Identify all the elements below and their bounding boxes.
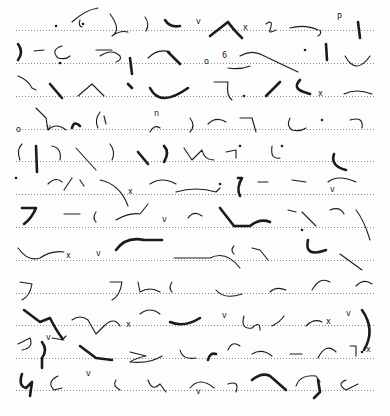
shorthand-outline	[318, 348, 336, 358]
shorthand-outline	[168, 52, 180, 64]
shorthand-outline	[180, 350, 196, 358]
shorthand-outline	[150, 180, 176, 184]
shorthand-outline	[110, 14, 128, 36]
shorthand-outline	[18, 76, 36, 90]
shorthand-mark: v	[46, 333, 51, 342]
shorthand-outline	[130, 58, 132, 74]
vowel-dot	[301, 229, 304, 232]
shorthand-mark: P	[337, 13, 342, 22]
shorthand-outline	[306, 321, 322, 326]
vowel-dot	[239, 145, 242, 148]
shorthand-outline	[170, 318, 200, 324]
shorthand-outline	[18, 338, 31, 350]
shorthand-outline	[42, 342, 45, 368]
shorthand-outline	[190, 118, 193, 132]
shorthand-outline	[296, 376, 320, 386]
shorthand-outline	[356, 281, 372, 286]
vowel-dot	[361, 351, 364, 354]
shorthand-outline	[140, 310, 160, 314]
shorthand-outline	[50, 84, 62, 98]
shorthand-outline	[116, 239, 162, 250]
shorthand-outline	[150, 88, 188, 98]
shorthand-outline	[252, 375, 286, 390]
shorthand-mark: o	[204, 57, 209, 66]
shorthand-outline	[326, 44, 327, 60]
shorthand-outline	[148, 51, 170, 58]
shorthand-mark: v	[346, 309, 351, 318]
shorthand-outline	[79, 20, 82, 27]
shorthand-mark: v	[46, 123, 51, 132]
shorthand-outline	[72, 8, 98, 22]
shorthand-outline	[100, 180, 128, 206]
shorthand-outline	[21, 374, 32, 396]
shorthand-outline	[214, 82, 232, 100]
shorthand-outline	[22, 208, 36, 224]
shorthand-outline	[362, 310, 370, 350]
vowel-dot	[15, 177, 18, 180]
shorthand-outline	[48, 179, 62, 184]
shorthand-outline	[270, 288, 286, 292]
shorthand-outline	[344, 91, 372, 94]
shorthand-outline	[145, 17, 148, 31]
shorthand-mark: x	[128, 187, 133, 196]
vowel-dot	[243, 95, 246, 98]
shorthand-outline	[165, 20, 180, 26]
shorthand-outline	[341, 380, 358, 390]
shorthand-mark: x	[326, 317, 331, 326]
vowel-dot	[281, 145, 284, 148]
shorthand-outline	[115, 380, 120, 390]
shorthand-outline	[130, 352, 162, 362]
shorthand-outline	[72, 317, 120, 334]
shorthand-outline	[272, 316, 284, 326]
shorthand-outline	[228, 66, 250, 69]
shorthand-outline	[110, 282, 122, 300]
shorthand-outline	[150, 127, 160, 132]
shorthand-outline	[358, 22, 360, 38]
shorthand-mark: v	[162, 215, 167, 224]
shorthand-outline	[356, 210, 370, 240]
shorthand-outline	[64, 178, 72, 190]
shorthand-outline	[243, 316, 260, 330]
shorthand-mark: n	[154, 109, 159, 118]
shorthand-outline	[208, 119, 226, 124]
shorthand-outline	[288, 118, 306, 131]
shorthand-outline	[138, 152, 148, 164]
shorthand-mark: x	[66, 251, 71, 260]
shorthand-mark: o	[16, 125, 21, 134]
shorthand-outline	[350, 346, 356, 356]
shorthand-outline	[18, 144, 22, 160]
shorthand-outline	[288, 210, 296, 212]
shorthand-outline	[36, 146, 37, 172]
shorthand-outline	[96, 112, 100, 128]
shorthand-outline	[34, 50, 44, 51]
shorthand-outline	[78, 84, 104, 96]
shorthand-outline	[238, 178, 242, 196]
shorthand-outline	[174, 256, 240, 268]
shorthand-mark: x	[126, 320, 131, 329]
shorthand-outline	[302, 212, 316, 226]
shorthand-outline	[266, 82, 280, 96]
shorthand-outline	[312, 280, 330, 290]
shorthand-mark: x	[243, 23, 248, 32]
shorthand-outline	[36, 108, 66, 130]
shorthand-outline	[266, 22, 276, 32]
shorthand-outline	[51, 376, 62, 390]
vowel-dot	[82, 23, 85, 26]
shorthand-outline	[290, 26, 318, 30]
vowel-dot	[219, 183, 222, 186]
shorthand-outline	[252, 248, 268, 260]
shorthand-outline	[307, 240, 326, 252]
shorthand-outline	[333, 154, 346, 170]
shorthand-outline	[72, 123, 80, 128]
shorthand-outline	[188, 213, 202, 218]
shorthand-outline	[345, 56, 370, 66]
shorthand-outline	[80, 180, 84, 186]
shorthand-strokes: vxPo6xovnvxvxvxvxvvxvv	[0, 0, 390, 416]
shorthand-outline	[226, 150, 236, 158]
shorthand-outline	[94, 212, 96, 222]
shorthand-outline	[24, 310, 62, 338]
shorthand-outline	[100, 52, 121, 62]
shorthand-outline	[18, 248, 64, 259]
shorthand-mark: v	[196, 17, 201, 26]
shorthand-outline	[80, 346, 112, 360]
